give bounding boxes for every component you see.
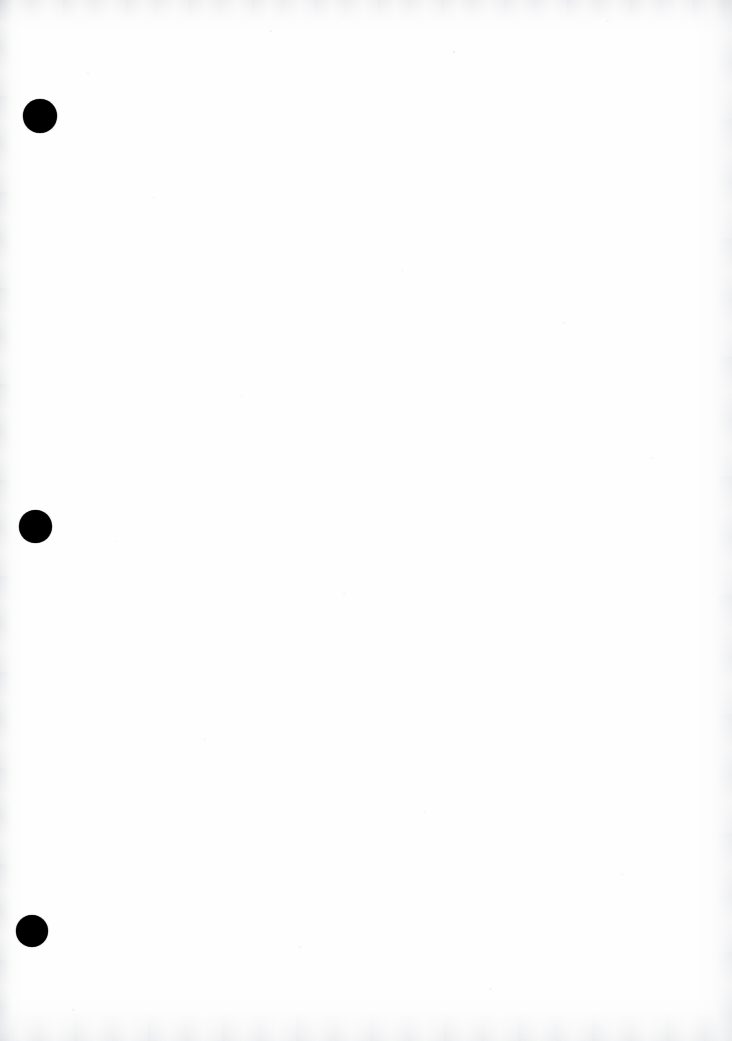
paper-grain-texture bbox=[0, 0, 732, 1041]
right-edge-scan-streak bbox=[714, 0, 732, 1041]
dot-bottom bbox=[16, 915, 48, 947]
bottom-smudge-band bbox=[0, 1007, 732, 1041]
dot-middle bbox=[19, 510, 52, 543]
dot-top bbox=[23, 99, 57, 133]
scanned-page bbox=[0, 0, 732, 1041]
top-smudge-band bbox=[0, 0, 732, 26]
left-edge-scan-streak bbox=[0, 0, 13, 1041]
